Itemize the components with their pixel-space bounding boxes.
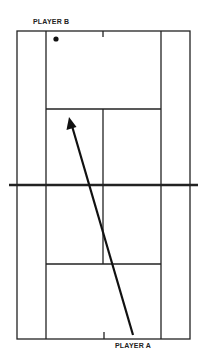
player-b-marker xyxy=(53,36,58,41)
court-drawing xyxy=(0,0,212,361)
player-b-label: PLAYER B xyxy=(33,18,69,25)
shot-arrow-icon xyxy=(67,117,134,335)
player-a-label: PLAYER A xyxy=(115,342,151,349)
